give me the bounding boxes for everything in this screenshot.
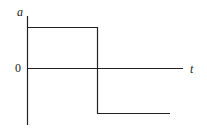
acceleration-time-graph xyxy=(0,0,207,136)
t-axis-label: t xyxy=(190,63,193,75)
origin-label: 0 xyxy=(15,62,21,74)
y-axis-label: a xyxy=(17,6,23,18)
